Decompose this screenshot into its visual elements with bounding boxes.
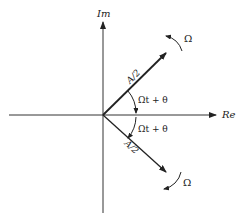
upper-phasor-magnitude-label: A/2 <box>124 67 143 86</box>
lower-rotation-label: Ω <box>183 177 191 188</box>
lower-phasor-magnitude-label: A/2 <box>122 137 141 155</box>
upper-angle-label: Ωt + θ <box>138 95 168 105</box>
upper-rotation-label: Ω <box>184 33 192 44</box>
upper-rotation-arc <box>166 36 182 51</box>
lower-angle-label: Ωt + θ <box>138 124 168 134</box>
real-axis-label: Re <box>221 109 236 120</box>
upper-phasor-arrow <box>103 53 166 115</box>
lower-angle-arc <box>128 117 136 138</box>
lower-rotation-arc <box>164 172 181 189</box>
upper-angle-arc <box>128 91 136 113</box>
phasor-diagram: Im Re A/2 Ωt + θ Ω A/2 Ωt + θ Ω <box>0 0 242 220</box>
imaginary-axis-label: Im <box>96 8 110 19</box>
